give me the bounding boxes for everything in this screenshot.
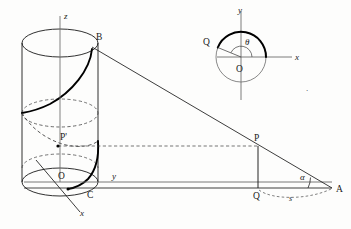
point-P-label: P [254,133,259,143]
axis-z-label: z [63,11,68,21]
point-O-label: O [58,171,65,181]
inset-radius-OQ [218,48,241,58]
axis-x-label: x [79,208,84,218]
inset-thick-arc [218,32,266,57]
angle-alpha-label: α [300,172,305,182]
inset-point-O-label: O [236,64,243,74]
point-marker-P-prime [56,144,59,147]
inset-angle-theta-arc [231,46,252,57]
hypotenuse-BA [92,47,332,188]
point-B-label: B [96,32,102,42]
inset-angle-theta-label: θ [245,37,250,47]
inset-axis-y-label: y [237,5,242,15]
arc-s-label: s [289,194,292,203]
stray-scan-mark: · [306,86,308,95]
arc-s-dashed [259,189,331,197]
angle-alpha-arc [308,178,311,189]
point-A-label: A [336,184,343,194]
helix-curve-upper-front [22,49,92,113]
axis-y-label: y [111,171,116,181]
point-Q-label: Q [253,191,260,201]
inset-point-Q-label: Q [203,37,210,47]
point-C-label: C [87,190,93,200]
point-P-prime-label: P' [60,132,67,142]
geometry-diagram: z B P' O y C x P Q A α s y x Q O θ · [0,0,351,229]
inset-axis-x-label: x [294,52,299,62]
figure-container: z B P' O y C x P Q A α s y x Q O θ · [0,0,351,229]
point-marker-C [67,188,70,191]
